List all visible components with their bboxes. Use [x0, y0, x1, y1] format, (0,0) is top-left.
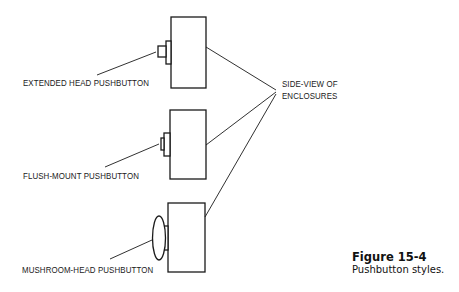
flush-mount-label: FLUSH-MOUNT PUSHBUTTON	[23, 171, 139, 181]
enclosure-label-line1: SIDE-VIEW OF	[282, 79, 338, 89]
enclosure-label-line2: ENCLOSURES	[282, 91, 337, 101]
enclosure-1	[171, 17, 206, 88]
enclosure-leaders	[205, 47, 276, 217]
pushbutton-diagram	[0, 0, 459, 292]
figure-caption: Pushbutton styles.	[352, 264, 444, 275]
extended-head-label: EXTENDED HEAD PUSHBUTTON	[23, 78, 149, 88]
flush-mount-pushbutton-icon	[161, 133, 170, 156]
mushroom-head-pushbutton-icon	[153, 216, 169, 260]
enclosure-2	[170, 110, 206, 179]
mushroom-head-label: MUSHROOM-HEAD PUSHBUTTON	[22, 265, 153, 275]
figure-number: Figure 15-4	[352, 250, 426, 264]
enclosure-3	[168, 203, 205, 272]
extended-head-pushbutton-icon	[158, 41, 171, 64]
